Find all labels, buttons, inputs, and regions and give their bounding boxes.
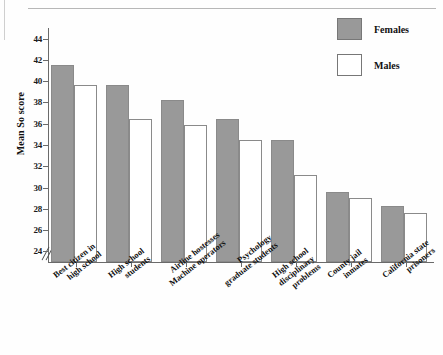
y-tick-mark [43, 251, 49, 252]
y-tick-label: 34 [33, 140, 42, 150]
y-tick-label: 44 [33, 34, 42, 44]
y-tick-mark [43, 39, 49, 40]
legend-item-females: Females [337, 18, 437, 40]
y-tick-mark [43, 81, 49, 82]
y-tick-label: 28 [33, 204, 42, 214]
y-tick-label: 30 [33, 183, 42, 193]
bar-females [161, 100, 184, 262]
legend-item-males: Males [337, 54, 437, 76]
y-tick-mark [43, 209, 49, 210]
chart-legend: Females Males [337, 18, 437, 90]
y-tick-mark [43, 124, 49, 125]
legend-label-males: Males [374, 60, 400, 71]
bar-males [129, 119, 152, 262]
bar-females [51, 65, 74, 262]
legend-swatch-females-icon [337, 18, 362, 40]
y-tick-mark [43, 102, 49, 103]
y-tick-mark [43, 230, 49, 231]
y-tick-label: 24 [33, 246, 42, 256]
y-tick-mark [43, 60, 49, 61]
legend-label-females: Females [374, 24, 409, 35]
y-tick-label: 40 [33, 76, 42, 86]
y-axis-title: Mean So score [15, 79, 26, 169]
y-tick-mark [43, 188, 49, 189]
y-tick-label: 38 [33, 97, 42, 107]
bar-males [74, 85, 97, 262]
y-tick-label: 26 [33, 225, 42, 235]
y-tick-mark [43, 145, 49, 146]
y-tick-label: 32 [33, 161, 42, 171]
bar-females [326, 192, 349, 262]
figure-page: 2426283032343638404244 Best citizen inhi… [0, 0, 443, 355]
legend-swatch-males-icon [337, 54, 362, 76]
bar-chart-plot: 2426283032343638404244 Best citizen inhi… [0, 0, 443, 355]
y-tick-mark [43, 166, 49, 167]
bar-females [106, 85, 129, 262]
y-tick-label: 36 [33, 119, 42, 129]
y-tick-label: 42 [33, 55, 42, 65]
bar-females [381, 206, 404, 262]
